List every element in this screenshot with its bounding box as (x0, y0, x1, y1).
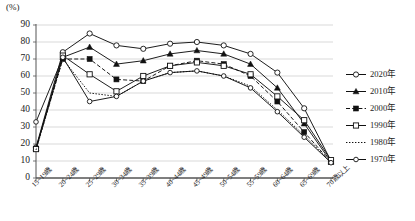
legend-label: 1980年 (370, 138, 396, 147)
data-point-marker (302, 130, 307, 135)
legend-marker-icon (345, 120, 367, 131)
data-point-marker (302, 118, 307, 123)
series-1990年 (33, 53, 333, 163)
data-point-marker (141, 73, 146, 78)
legend-item-1980年[interactable]: 1980年 (345, 134, 413, 151)
data-point-marker (168, 70, 173, 75)
data-point-marker (61, 55, 66, 60)
legend-label: 2020年 (370, 70, 396, 79)
data-point-marker (194, 47, 200, 52)
y-axis-tick-label: 40 (4, 105, 30, 115)
data-point-marker (87, 72, 92, 77)
data-point-marker (248, 51, 253, 56)
legend-item-2000年[interactable]: 2000年 (345, 100, 413, 117)
data-point-marker (87, 44, 93, 49)
y-axis-tick-label: 90 (4, 20, 30, 30)
data-point-marker (221, 63, 226, 68)
data-point-marker (302, 135, 307, 140)
legend-label: 2010年 (370, 87, 396, 96)
legend-item-2010年[interactable]: 2010年 (345, 83, 413, 100)
y-axis-tick-label: 80 (4, 37, 30, 47)
legend-label: 1990年 (370, 121, 396, 130)
data-point-marker (248, 72, 253, 77)
y-axis-tick-label: 20 (4, 139, 30, 149)
data-point-marker (275, 70, 280, 75)
data-point-marker (275, 99, 280, 104)
data-point-marker (354, 106, 359, 111)
data-point-marker (114, 89, 119, 94)
series-line (36, 59, 331, 162)
data-point-marker (141, 46, 146, 51)
data-point-marker (353, 72, 358, 77)
chart-legend: 2020年2010年2000年1990年1980年1970年 (345, 66, 413, 168)
data-point-marker (194, 39, 199, 44)
series-line (36, 59, 331, 162)
data-point-marker (167, 63, 172, 68)
data-point-marker (141, 79, 146, 84)
data-point-marker (353, 123, 358, 128)
data-point-marker (87, 31, 92, 36)
data-point-marker (114, 77, 119, 82)
legend-marker-icon (345, 86, 367, 97)
data-point-marker (302, 106, 307, 111)
y-axis-tick-label: 60 (4, 71, 30, 81)
y-axis-tick-label: 30 (4, 122, 30, 132)
data-point-marker (167, 41, 172, 46)
y-axis-tick-label: 0 (4, 173, 30, 183)
legend-marker-icon (345, 103, 367, 114)
series-1980年 (36, 59, 331, 162)
data-point-marker (195, 69, 200, 74)
data-point-marker (329, 160, 334, 165)
y-axis-tick-label: 10 (4, 156, 30, 166)
legend-item-2020年[interactable]: 2020年 (345, 66, 413, 83)
legend-label: 1970年 (370, 155, 396, 164)
series-2000年 (34, 57, 334, 165)
legend-marker-icon (345, 137, 367, 148)
legend-item-1970年[interactable]: 1970年 (345, 151, 413, 168)
y-axis-tick-label: 50 (4, 88, 30, 98)
data-point-marker (221, 74, 226, 79)
data-point-marker (221, 43, 226, 48)
series-2010年 (33, 44, 334, 164)
y-axis-tick-label: 70 (4, 54, 30, 64)
data-point-marker (87, 99, 92, 104)
chart-container: (%) 9080706050403020100 15~19歳20~24歳25~2… (0, 0, 415, 221)
data-point-marker (34, 120, 39, 125)
legend-marker-icon (345, 154, 367, 165)
data-point-marker (275, 109, 280, 114)
legend-marker-icon (345, 69, 367, 80)
data-point-marker (114, 94, 119, 99)
data-point-marker (248, 86, 253, 91)
legend-item-1990年[interactable]: 1990年 (345, 117, 413, 134)
data-point-marker (114, 43, 119, 48)
data-point-marker (354, 157, 359, 162)
legend-label: 2000年 (370, 104, 396, 113)
data-point-marker (194, 60, 199, 65)
data-point-marker (87, 57, 92, 62)
data-point-marker (275, 94, 280, 99)
data-series-layer (33, 31, 334, 165)
